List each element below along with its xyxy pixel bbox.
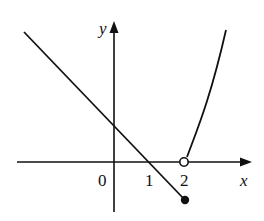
tick-label-0: 0 xyxy=(98,172,107,189)
y-axis-label: y xyxy=(99,20,107,37)
tick-label-2: 2 xyxy=(180,172,189,189)
graph-canvas xyxy=(0,0,264,221)
tick-label-1: 1 xyxy=(145,172,154,189)
x-axis-label: x xyxy=(240,172,248,189)
function-graph: y x 0 1 2 xyxy=(0,0,264,221)
curve-piece xyxy=(187,30,226,157)
closed-endpoint xyxy=(181,196,189,204)
open-endpoint xyxy=(180,158,188,166)
x-axis-arrow-icon xyxy=(240,158,252,167)
y-axis-arrow-icon xyxy=(110,21,119,33)
